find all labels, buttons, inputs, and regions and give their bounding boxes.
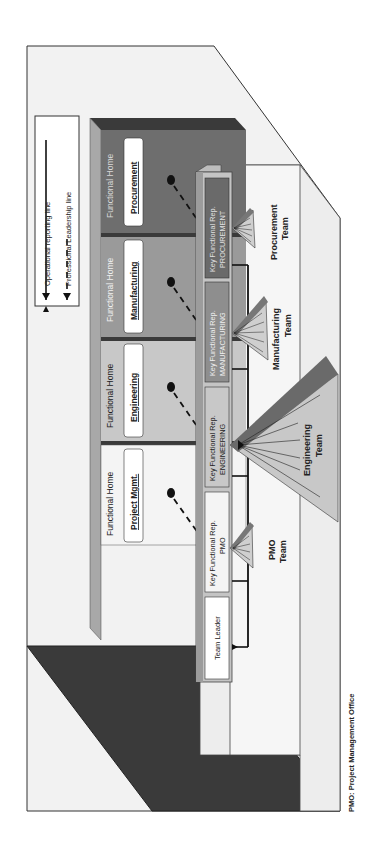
rep-function: MANUFACTURING [218, 312, 227, 376]
org-diagram: Operational reporting line Professional … [0, 0, 371, 846]
rep-manufacturing: Key Functional Rep. MANUFACTURING [205, 282, 229, 382]
home-node-dot [167, 277, 175, 287]
homes-side-face [90, 118, 101, 640]
home-node-dot [167, 382, 175, 392]
rep-pmo: Key Functional Rep. PMO [205, 492, 229, 592]
home-title: Functional Home [105, 363, 115, 428]
svg-text:PMO: PMO [267, 539, 277, 560]
homes-top-slab [90, 118, 246, 130]
svg-text:Team: Team [278, 540, 288, 563]
footnote: PMO: Project Management Office [347, 694, 356, 812]
team-leader-label: Team Leader [213, 616, 222, 660]
home-node-dot [167, 175, 175, 185]
svg-text:Team: Team [314, 434, 324, 457]
svg-text:Team: Team [283, 314, 293, 337]
svg-text:Procurement: Procurement [269, 204, 279, 260]
svg-text:Team: Team [280, 217, 290, 240]
legend-dashed-label: Professional Leadership line [64, 192, 73, 286]
rep-label: Key Functional Rep. [208, 520, 217, 586]
rep-function: PMO [218, 537, 227, 554]
rep-label: Key Functional Rep. [208, 310, 217, 376]
svg-text:Engineering: Engineering [302, 424, 312, 476]
team-leader-box: Team Leader [205, 597, 229, 679]
legend-solid-label: Operational reporting line [43, 202, 52, 286]
home-node-dot [167, 488, 175, 498]
home-name: Manufacturing [129, 261, 139, 320]
rep-label: Key Functional Rep. [208, 206, 217, 272]
rep-function: ENGINEERING [218, 424, 227, 475]
rep-engineering: Key Functional Rep. ENGINEERING [205, 387, 229, 487]
rep-function: PROCUREMENT [218, 210, 227, 268]
rep-label: Key Functional Rep. [208, 415, 217, 481]
svg-text:Manufacturing: Manufacturing [271, 308, 281, 370]
home-title: Functional Home [105, 153, 115, 218]
home-title: Functional Home [105, 257, 115, 322]
team-label-pmo: PMO Team [267, 539, 288, 563]
rep-procurement: Key Functional Rep. PROCUREMENT [205, 178, 229, 278]
home-title: Functional Home [105, 471, 115, 536]
home-name: Project Mgmt. [129, 474, 139, 530]
home-name: Procurement [129, 161, 139, 214]
home-name: Engineering [129, 373, 139, 422]
